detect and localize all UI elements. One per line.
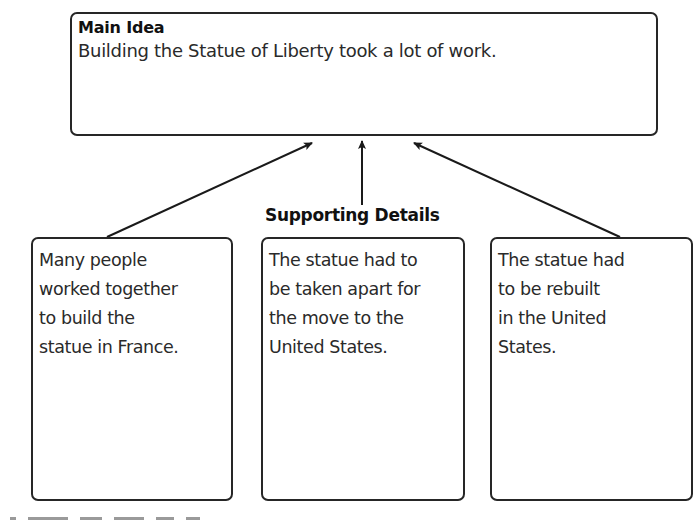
detail-text-line: Many people <box>39 246 231 275</box>
detail-text-line: States. <box>498 333 691 362</box>
arrow-right-to-main <box>414 143 620 237</box>
detail-box: Many people worked together to build the… <box>31 237 233 501</box>
detail-text-line: statue in France. <box>39 333 231 362</box>
detail-text-line: to build the <box>39 304 231 333</box>
cropped-text-fragment <box>10 512 250 520</box>
detail-text-line: be taken apart for <box>269 275 463 304</box>
detail-text-line: to be rebuilt <box>498 275 691 304</box>
detail-text-line: the move to the <box>269 304 463 333</box>
main-idea-text: Building the Statue of Liberty took a lo… <box>78 39 656 63</box>
detail-box: The statue had to be rebuilt in the Unit… <box>490 237 693 501</box>
detail-text-line: worked together <box>39 275 231 304</box>
detail-text-line: United States. <box>269 333 463 362</box>
supporting-details-label: Supporting Details <box>265 204 440 226</box>
main-idea-box: Main Idea Building the Statue of Liberty… <box>70 12 658 136</box>
detail-box: The statue had to be taken apart for the… <box>261 237 465 501</box>
detail-text-line: The statue had <box>498 246 691 275</box>
detail-text-line: The statue had to <box>269 246 463 275</box>
main-idea-heading: Main Idea <box>78 18 656 38</box>
detail-text-line: in the United <box>498 304 691 333</box>
